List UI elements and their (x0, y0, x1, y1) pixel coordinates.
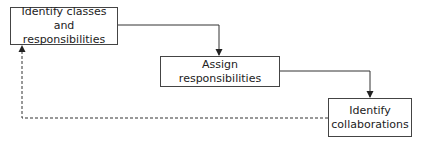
arrowhead-icon (216, 49, 223, 56)
node-identify-collaborations: Identify collaborations (328, 98, 412, 137)
node-assign-responsibilities: Assign responsibilities (160, 56, 280, 87)
edge-n1-n2 (117, 25, 219, 55)
arrowhead-icon (367, 91, 374, 98)
edge-n2-n3 (279, 71, 370, 97)
node-label: Identify classes and responsibilities (15, 5, 113, 47)
node-identify-classes: Identify classes and responsibilities (10, 7, 118, 45)
node-label: Identify collaborations (331, 104, 408, 132)
node-label: Assign responsibilities (165, 58, 275, 86)
